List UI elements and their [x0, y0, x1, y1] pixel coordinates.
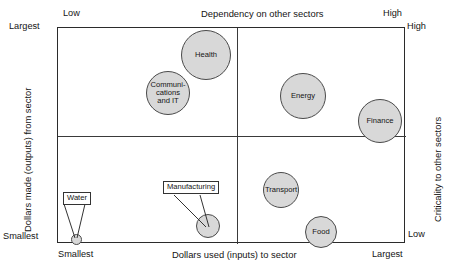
bubble-label-finance: Finance — [365, 117, 394, 125]
bubble-chart-figure: Low Dependency on other sectors High Lar… — [0, 0, 449, 277]
bubble-label-communications: Communi- cations and IT — [149, 81, 186, 105]
bubble-label-energy: Energy — [290, 92, 316, 100]
right-axis-tick-high: High — [407, 21, 426, 31]
plot-area: Health Communi- cations and IT Energy Fi… — [57, 27, 405, 243]
left-axis-tick-largest: Largest — [9, 21, 40, 31]
top-axis-tick-high: High — [383, 8, 402, 18]
bubble-label-food: Food — [311, 228, 330, 236]
bottom-axis-tick-smallest: Smallest — [58, 249, 93, 259]
bubble-communications[interactable]: Communi- cations and IT — [146, 71, 190, 115]
callout-label-water: Water — [67, 193, 87, 202]
bottom-axis-title: Dollars used (inputs) to sector — [172, 249, 297, 260]
top-axis-title: Dependency on other sectors — [201, 8, 323, 19]
bubble-health[interactable]: Health — [181, 30, 231, 80]
bubble-finance[interactable]: Finance — [358, 99, 402, 143]
callout-label-manufacturing: Manufacturing — [167, 182, 215, 191]
callout-manufacturing[interactable]: Manufacturing — [163, 181, 219, 194]
bubble-label-health: Health — [194, 51, 218, 59]
callout-water[interactable]: Water — [63, 192, 91, 205]
bubble-label-transport: Transport — [264, 186, 298, 194]
left-axis-tick-smallest: Smallest — [3, 231, 38, 241]
bubble-manufacturing[interactable] — [196, 214, 220, 238]
bubble-transport[interactable]: Transport — [263, 172, 299, 208]
bottom-axis-tick-largest: Largest — [372, 249, 403, 259]
bubble-food[interactable]: Food — [305, 216, 337, 248]
top-axis-tick-low: Low — [63, 8, 80, 18]
quadrant-horizontal-divider — [58, 136, 406, 137]
left-axis-title: Dollars made (outputs) from sector — [22, 88, 33, 232]
right-axis-title: Criticality to other sectors — [432, 117, 443, 222]
bubble-energy[interactable]: Energy — [280, 73, 326, 119]
right-axis-tick-low: Low — [408, 229, 425, 239]
bubble-water[interactable] — [71, 234, 82, 245]
